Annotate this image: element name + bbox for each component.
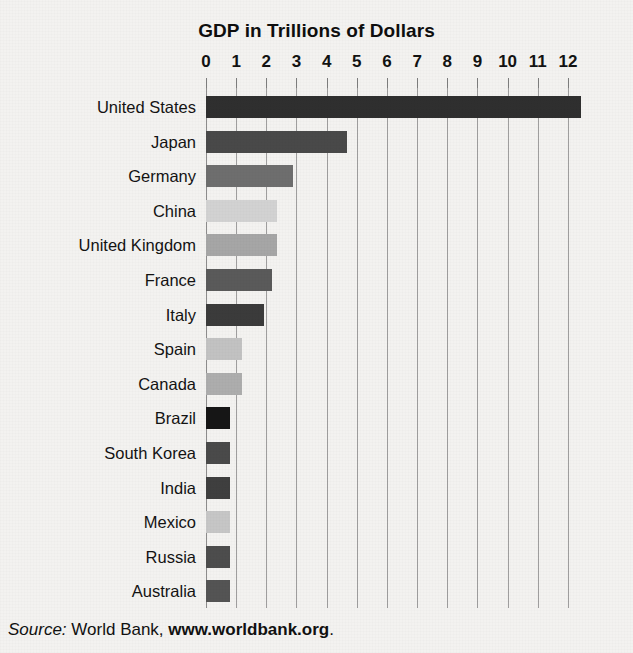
bar-canada: [206, 373, 242, 395]
x-tick-label-12: 12: [553, 52, 583, 72]
bar-rows: United StatesJapanGermanyChinaUnited Kin…: [0, 88, 633, 608]
category-label-united-kingdom: United Kingdom: [0, 234, 196, 256]
category-label-australia: Australia: [0, 580, 196, 602]
category-label-japan: Japan: [0, 131, 196, 153]
x-tick-mark-12: [568, 78, 569, 88]
bar-spain: [206, 338, 242, 360]
category-label-china: China: [0, 200, 196, 222]
x-tick-label-10: 10: [493, 52, 523, 72]
x-tick-mark-2: [266, 78, 267, 88]
x-tick-label-9: 9: [462, 52, 492, 72]
category-label-united-states: United States: [0, 96, 196, 118]
bar-row: France: [0, 269, 633, 291]
category-label-mexico: Mexico: [0, 511, 196, 533]
bar-russia: [206, 546, 230, 568]
source-tail: .: [329, 620, 334, 639]
x-tick-label-6: 6: [372, 52, 402, 72]
category-label-italy: Italy: [0, 304, 196, 326]
category-label-france: France: [0, 269, 196, 291]
bar-united-kingdom: [206, 234, 277, 256]
bar-france: [206, 269, 272, 291]
bar-japan: [206, 131, 347, 153]
bar-row: United States: [0, 96, 633, 118]
bar-row: Canada: [0, 373, 633, 395]
bar-row: Italy: [0, 304, 633, 326]
x-tick-mark-10: [508, 78, 509, 88]
x-tick-mark-9: [477, 78, 478, 88]
x-tick-mark-5: [357, 78, 358, 88]
bar-united-states: [206, 96, 581, 118]
x-tick-mark-0: [206, 78, 207, 88]
source-link: www.worldbank.org: [168, 620, 329, 639]
x-tick-label-5: 5: [342, 52, 372, 72]
bar-south-korea: [206, 442, 230, 464]
bar-row: Brazil: [0, 407, 633, 429]
category-label-russia: Russia: [0, 546, 196, 568]
bar-china: [206, 200, 277, 222]
x-axis-tick-labels: 0123456789101112: [0, 52, 633, 76]
x-tick-mark-7: [417, 78, 418, 88]
x-tick-label-0: 0: [191, 52, 221, 72]
bar-row: China: [0, 200, 633, 222]
x-tick-mark-8: [447, 78, 448, 88]
x-tick-mark-3: [296, 78, 297, 88]
category-label-south-korea: South Korea: [0, 442, 196, 464]
source-body: World Bank,: [67, 620, 169, 639]
bar-germany: [206, 165, 293, 187]
bar-row: India: [0, 477, 633, 499]
bar-mexico: [206, 511, 230, 533]
bar-row: United Kingdom: [0, 234, 633, 256]
bar-row: Germany: [0, 165, 633, 187]
bar-row: Russia: [0, 546, 633, 568]
category-label-canada: Canada: [0, 373, 196, 395]
x-axis-tick-marks: [0, 78, 633, 88]
category-label-india: India: [0, 477, 196, 499]
chart-title: GDP in Trillions of Dollars: [0, 20, 633, 42]
bar-india: [206, 477, 230, 499]
x-tick-mark-1: [236, 78, 237, 88]
source-note: Source: World Bank, www.worldbank.org.: [8, 620, 334, 640]
x-tick-label-11: 11: [523, 52, 553, 72]
x-tick-mark-6: [387, 78, 388, 88]
x-tick-label-8: 8: [432, 52, 462, 72]
x-tick-label-7: 7: [402, 52, 432, 72]
x-tick-mark-4: [327, 78, 328, 88]
bar-row: South Korea: [0, 442, 633, 464]
x-tick-label-3: 3: [281, 52, 311, 72]
x-tick-label-2: 2: [251, 52, 281, 72]
x-tick-label-4: 4: [312, 52, 342, 72]
source-lead: Source:: [8, 620, 67, 639]
category-label-germany: Germany: [0, 165, 196, 187]
bar-row: Spain: [0, 338, 633, 360]
category-label-spain: Spain: [0, 338, 196, 360]
category-label-brazil: Brazil: [0, 407, 196, 429]
bar-row: Mexico: [0, 511, 633, 533]
x-tick-label-1: 1: [221, 52, 251, 72]
bar-brazil: [206, 407, 230, 429]
bar-row: Japan: [0, 131, 633, 153]
bar-row: Australia: [0, 580, 633, 602]
x-tick-mark-11: [538, 78, 539, 88]
bar-italy: [206, 304, 264, 326]
bar-australia: [206, 580, 230, 602]
gdp-bar-chart: GDP in Trillions of Dollars 012345678910…: [0, 0, 633, 653]
